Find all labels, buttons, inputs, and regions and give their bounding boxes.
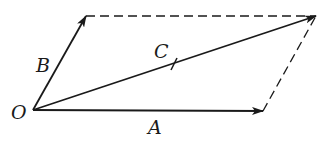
label-c: C [154, 40, 169, 62]
label-b: B [35, 54, 50, 76]
label-o: O [11, 101, 27, 123]
label-a: A [146, 116, 162, 138]
vector-a-arrow [33, 110, 263, 111]
parallelogram-diagram: O A B C [0, 0, 335, 141]
